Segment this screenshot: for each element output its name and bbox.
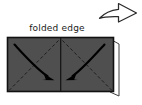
next-step-arrow-icon: [100, 4, 137, 23]
origami-diagram-canvas: [0, 0, 142, 105]
origami-diagram: folded edge: [0, 0, 142, 105]
folded-edge-label: folded edge: [0, 23, 114, 34]
